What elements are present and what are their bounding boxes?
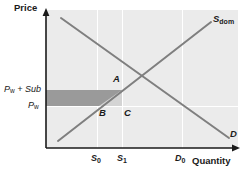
supply-domestic-label-subscript: dom [219, 18, 234, 25]
point-label-a: A [113, 74, 120, 84]
x-tick-label-d0: D0 [175, 154, 185, 164]
x-axis-label: Quantity [192, 156, 231, 166]
point-label-b: B [99, 108, 106, 118]
y-axis-arrowhead [43, 8, 50, 16]
supply-domestic-curve [58, 22, 211, 141]
supply-domestic-curve-label: Sdom [213, 14, 234, 25]
x-axis-arrowhead [232, 145, 240, 152]
x-tick-label-s0-subscript: 0 [97, 157, 101, 164]
price-label-pw: Pw [28, 101, 39, 111]
point-label-c: C [124, 108, 131, 118]
x-tick-label-d0-subscript: 0 [182, 157, 186, 164]
diagram-canvas: Price Quantity Pw + Sub Pw S0 S1 D0 Sdom… [0, 0, 248, 172]
x-tick-label-s0: S0 [91, 154, 101, 164]
x-tick-label-s1: S1 [117, 154, 127, 164]
y-axis-label: Price [14, 3, 37, 13]
price-label-pw-plus-sub-tail: + Sub [15, 84, 41, 94]
price-label-pw-plus-sub: Pw + Sub [4, 85, 41, 95]
price-label-pw-subscript: w [34, 103, 39, 110]
demand-curve-label: D [230, 129, 237, 139]
x-tick-label-s1-subscript: 1 [123, 157, 127, 164]
